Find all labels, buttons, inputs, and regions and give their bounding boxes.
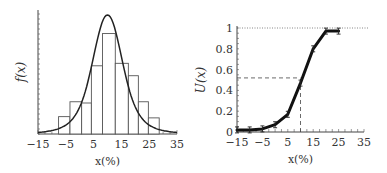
histogram-bar xyxy=(102,34,115,134)
x-tick-label: 15 xyxy=(114,138,128,151)
x-tick-label: 35 xyxy=(357,136,371,149)
x-tick-label: −5 xyxy=(254,136,270,149)
x-tick-label: −15 xyxy=(225,136,248,149)
y-axis-label: f(x) xyxy=(14,61,28,83)
x-tick-label: −15 xyxy=(26,138,49,151)
figure-canvas: −15−55152535x(%)f(x) 00.20.40.60.81−15−5… xyxy=(0,0,387,173)
histogram-bar xyxy=(91,66,102,134)
histogram-chart: −15−55152535x(%)f(x) xyxy=(14,10,184,168)
histogram-bar xyxy=(115,63,128,134)
y-tick-label: 0.4 xyxy=(216,84,234,97)
y-tick-label: 0.2 xyxy=(216,105,234,118)
cdf-chart: 00.20.40.60.81−15−55152535x(%)U(x) xyxy=(194,22,371,166)
y-tick-label: 0.6 xyxy=(216,64,234,77)
x-tick-label: 5 xyxy=(90,138,97,151)
y-tick-label: 0.8 xyxy=(216,43,234,56)
x-tick-label: 35 xyxy=(170,138,184,151)
x-tick-label: 25 xyxy=(332,136,346,149)
x-tick-label: −5 xyxy=(58,138,74,151)
histogram-bar xyxy=(138,102,148,134)
figure: −15−55152535x(%)f(x) 00.20.40.60.81−15−5… xyxy=(0,0,387,173)
y-axis-label: U(x) xyxy=(194,67,208,94)
y-tick-label: 1 xyxy=(226,22,233,35)
x-tick-label: 25 xyxy=(142,138,156,151)
histogram-bar xyxy=(82,103,92,134)
x-axis-label: x(%) xyxy=(288,153,313,166)
x-axis-label: x(%) xyxy=(95,155,120,168)
x-tick-label: 15 xyxy=(306,136,320,149)
histogram-bar xyxy=(128,76,138,134)
x-tick-label: 5 xyxy=(284,136,291,149)
